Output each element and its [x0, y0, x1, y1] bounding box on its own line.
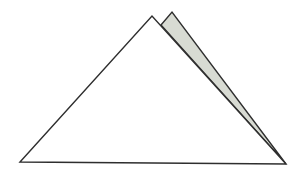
main-triangle — [20, 16, 286, 164]
folded-triangle-figure — [0, 0, 301, 170]
diagram-canvas — [0, 0, 301, 170]
